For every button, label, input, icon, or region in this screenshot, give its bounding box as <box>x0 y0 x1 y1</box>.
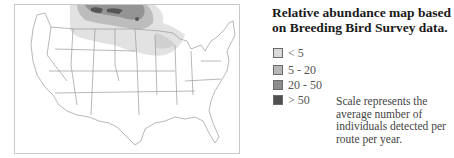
legend-swatch <box>273 80 283 90</box>
legend-item: 20 - 50 <box>273 79 393 92</box>
legend-item: 5 - 20 <box>273 64 393 77</box>
abundance-shading <box>70 5 185 56</box>
scale-note: Scale represents the average number of i… <box>336 95 454 145</box>
legend-swatch <box>273 48 283 58</box>
legend-label: 5 - 20 <box>288 64 316 77</box>
map-title: Relative abundance map based on Breeding… <box>272 5 452 35</box>
legend-item: < 5 <box>273 47 393 60</box>
abundance-map <box>14 4 240 154</box>
us-map-graphic <box>15 5 240 154</box>
legend-label: > 50 <box>288 94 310 107</box>
legend-label: 20 - 50 <box>288 79 322 92</box>
legend-label: < 5 <box>288 47 304 60</box>
legend-swatch <box>273 65 283 75</box>
legend-swatch <box>273 95 283 105</box>
